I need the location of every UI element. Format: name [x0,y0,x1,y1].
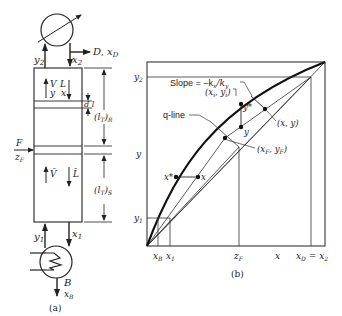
feed-flow-label: F [15,138,23,148]
rect-height-label: (lT)R [94,112,113,123]
strip-vapor-label: V̄ [50,168,58,179]
x-point-label: x [201,172,206,182]
point-x [196,175,200,179]
bottoms-flow-label: B [63,277,71,288]
rect-x-label: x [61,88,66,98]
feed-point-label: (xF, yF) [257,144,287,155]
stripping-line [147,147,239,246]
x-axis-label: x [275,251,280,261]
column-shell [34,68,82,222]
q-line-label: q-line [163,110,185,120]
point-y [239,125,243,129]
top-liquid-label: x2 [72,54,83,67]
x-tick-x1: x1 [166,251,175,262]
x-tick-xb: xB [153,251,163,262]
column-diagram: D, xD y2 x2 V L y x d l (lT)R [14,14,119,313]
top-vapor-label: y2 [33,54,45,67]
point-xy [263,107,267,111]
strip-liquid-label: L̄ [72,168,79,179]
y-tick-y1: y1 [133,213,143,224]
rectifying-line [225,77,311,138]
distillate-label: D, xD [92,46,119,59]
bottom-vapor-label: y1 [33,231,44,244]
xy-point-label: (x, y) [277,118,299,128]
x-star-label: x* [164,172,174,182]
operating-line-upper [147,77,311,246]
caption-b: (b) [231,269,244,279]
bottom-liquid-label: x1 [72,228,82,241]
dl-label: d l [84,100,95,109]
operating-diagram: Slope = −kx/ky (xi, yi) q-line y* y (x, … [133,62,328,279]
point-x-star [174,175,178,179]
caption-a: (a) [49,303,61,313]
bottoms-comp-label: xB [64,289,74,300]
condenser-icon [38,14,81,46]
x-tick-xd: xD = x2 [296,251,328,262]
y-tick-y2: y2 [133,72,143,83]
figure-canvas: D, xD y2 x2 V L y x d l (lT)R [0,0,342,316]
y-point-label: y [243,127,249,137]
rect-y-label: y [49,88,56,98]
reboiler-icon [30,246,72,278]
point-feed [223,136,227,140]
y-star-label: y* [242,102,253,112]
feed-comp-label: zF [14,152,25,163]
strip-height-label: (lT)S [94,185,112,196]
y-axis-label: y [135,149,142,159]
interface-point-label: (xi, yi) [205,87,231,98]
x-tick-zf: zF [233,251,244,262]
q-line [211,122,239,147]
